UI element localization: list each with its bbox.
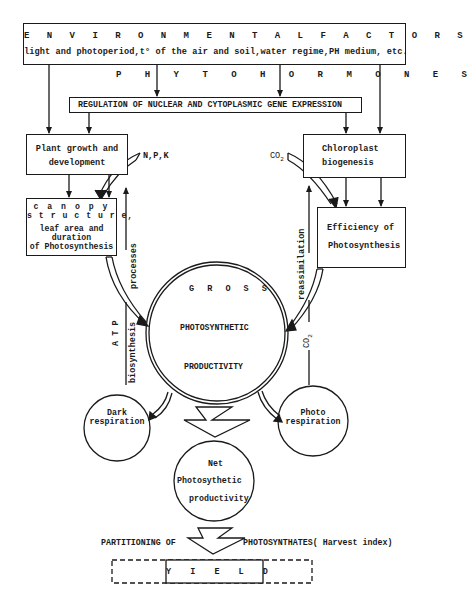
efficiency-line2: Photosynthesis bbox=[328, 242, 400, 251]
arrow-partitioning bbox=[188, 528, 245, 554]
net-line3: productivity bbox=[189, 495, 249, 503]
canopy-line3: leaf area and bbox=[27, 225, 116, 233]
canopy-line1: c a n o p y bbox=[27, 203, 116, 211]
dark-respiration-line2: respiration bbox=[84, 418, 150, 426]
plant-growth-line2: development bbox=[27, 159, 127, 168]
canopy-box: c a n o p y s t r u c t u r e, leaf area… bbox=[26, 198, 117, 256]
regulation-label: REGULATION OF NUCLEAR AND CYTOPLASMIC GE… bbox=[78, 101, 342, 109]
partitioning-right-label: PHOTOSYNTHATES( Harvest index) bbox=[243, 539, 392, 547]
phytohormones-label: P H Y T O H O R M O N E S bbox=[116, 71, 472, 80]
chloroplast-line2: biogenesis bbox=[322, 159, 374, 168]
arrow-gross-to-net bbox=[184, 407, 250, 437]
regulation-box: REGULATION OF NUCLEAR AND CYTOPLASMIC GE… bbox=[69, 97, 362, 113]
chloroplast-line1: Chloroplast bbox=[322, 145, 379, 154]
efficiency-line1: Efficiency of bbox=[327, 224, 394, 233]
net-line2: Photosythetic bbox=[177, 477, 242, 485]
plant-growth-line1: Plant growth and bbox=[27, 145, 127, 154]
atp-label: A T P bbox=[112, 320, 121, 346]
partitioning-left-label: PARTITIONING OF bbox=[101, 539, 176, 547]
gross-line2: PHOTOSYNTHETIC bbox=[180, 324, 249, 332]
photo-respiration-line2: respiration bbox=[278, 418, 348, 426]
biosynthesis-label: biosynthesis bbox=[129, 322, 138, 383]
co2-vertical-label: CO2 bbox=[303, 334, 314, 348]
npk-label: N,P,K bbox=[143, 152, 169, 161]
processes-label: processes bbox=[130, 243, 139, 289]
gross-line3: PRODUCTIVITY bbox=[184, 363, 243, 371]
canopy-line4: duration bbox=[27, 234, 116, 242]
dark-respiration-circle bbox=[84, 395, 150, 461]
environmental-factors-title: E N V I R O N M E N T A L F A C T O R S bbox=[24, 32, 405, 41]
reassimilation-label: reassimilation bbox=[298, 229, 307, 300]
arrow-gross-to-photo bbox=[258, 392, 278, 420]
efficiency-box: Efficiency of Photosynthesis bbox=[317, 207, 406, 268]
arrow-gross-to-dark bbox=[155, 393, 172, 418]
co2-top-label: CO2 bbox=[270, 152, 284, 163]
chloroplast-box: Chloroplast biogenesis bbox=[303, 134, 406, 178]
environmental-factors-box: E N V I R O N M E N T A L F A C T O R S … bbox=[23, 23, 406, 65]
yield-label: Y I E L D bbox=[166, 568, 263, 577]
environmental-factors-subtitle: light and photoperiod,t° of the air and … bbox=[24, 48, 405, 57]
net-line1: Net bbox=[208, 460, 223, 468]
canopy-line2: s t r u c t u r e, bbox=[27, 212, 116, 220]
gross-line1: G R O S S bbox=[189, 285, 271, 294]
canopy-line5: of Photosynthesis bbox=[27, 243, 116, 251]
plant-growth-box: Plant growth and development bbox=[26, 134, 128, 175]
